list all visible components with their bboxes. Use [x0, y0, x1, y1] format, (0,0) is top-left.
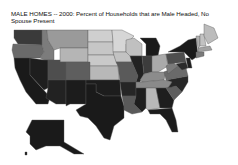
state-ohio[interactable]	[152, 54, 168, 72]
state-oregon[interactable]	[12, 44, 44, 58]
state-indiana[interactable]	[142, 56, 152, 74]
state-kansas[interactable]	[90, 66, 119, 80]
state-north-dakota[interactable]	[88, 30, 113, 42]
state-utah[interactable]	[48, 60, 66, 80]
state-nebraska[interactable]	[88, 55, 118, 66]
state-south-dakota[interactable]	[88, 42, 114, 55]
state-new-mexico[interactable]	[66, 80, 86, 106]
state-maine[interactable]	[204, 24, 218, 44]
state-florida[interactable]	[148, 108, 178, 132]
state-wyoming[interactable]	[60, 48, 88, 62]
state-pennsylvania[interactable]	[166, 52, 186, 64]
state-hawaii[interactable]	[25, 152, 27, 155]
state-montana[interactable]	[47, 30, 88, 50]
state-colorado[interactable]	[66, 62, 90, 80]
state-washington[interactable]	[14, 30, 42, 45]
us-choropleth-map	[0, 0, 238, 165]
state-alaska[interactable]	[26, 120, 84, 154]
state-connecticut[interactable]	[196, 52, 204, 58]
state-wisconsin[interactable]	[126, 38, 142, 56]
state-michigan[interactable]	[140, 38, 160, 56]
state-massachusetts[interactable]	[198, 46, 212, 52]
state-arkansas[interactable]	[120, 82, 136, 96]
